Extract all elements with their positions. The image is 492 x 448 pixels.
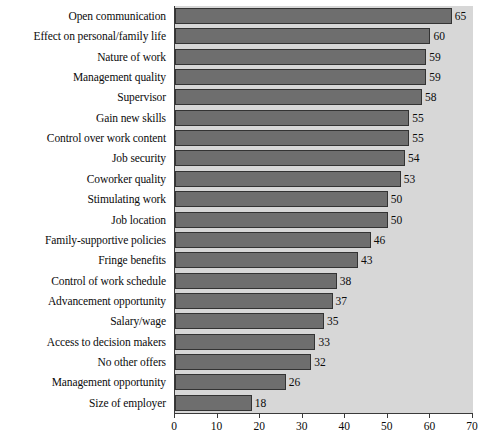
category-label: Family-supportive policies (45, 230, 166, 251)
x-tick-label: 30 (296, 419, 308, 433)
bar-row: 55 (175, 108, 473, 129)
bar-value-label: 46 (371, 231, 386, 249)
category-label: Open communication (68, 6, 166, 27)
bar-value-label: 60 (430, 27, 445, 45)
category-label: Control of work schedule (51, 271, 166, 292)
x-tick-label: 40 (339, 419, 351, 433)
x-tick-label: 50 (381, 419, 393, 433)
x-tick-mark (217, 413, 218, 418)
bar-value-label: 50 (388, 211, 403, 229)
x-tick-mark (429, 413, 430, 418)
category-label: Gain new skills (96, 108, 166, 129)
bar-row: 65 (175, 6, 473, 27)
bar (175, 150, 405, 166)
bar-row: 58 (175, 87, 473, 108)
bar-value-label: 50 (388, 190, 403, 208)
bar-row: 46 (175, 230, 473, 251)
bar-value-label: 26 (286, 373, 301, 391)
category-label: Fringe benefits (98, 250, 166, 271)
bar (175, 49, 426, 65)
category-label: Access to decision makers (47, 332, 166, 353)
category-label: Job location (111, 210, 166, 231)
bar (175, 69, 426, 85)
bar (175, 212, 388, 228)
bar-row: 43 (175, 250, 473, 271)
bar-row: 26 (175, 372, 473, 393)
x-tick-mark (259, 413, 260, 418)
x-tick-label: 60 (424, 419, 436, 433)
category-label: No other offers (97, 352, 166, 373)
bar-row: 33 (175, 332, 473, 353)
x-tick-label: 10 (211, 419, 223, 433)
bar (175, 273, 337, 289)
bar (175, 8, 452, 24)
category-label: Effect on personal/family life (33, 26, 166, 47)
horizontal-bar-chart: Open communicationEffect on personal/fam… (0, 0, 492, 448)
bar-value-label: 65 (452, 7, 467, 25)
bar-value-label: 55 (409, 129, 424, 147)
x-tick-label: 20 (253, 419, 265, 433)
bar-value-label: 54 (405, 149, 420, 167)
bar (175, 89, 422, 105)
category-label: Management opportunity (52, 372, 166, 393)
bar-row: 55 (175, 128, 473, 149)
bar (175, 334, 315, 350)
category-label: Job security (112, 148, 166, 169)
bar-row: 32 (175, 352, 473, 373)
bar (175, 171, 401, 187)
bar-value-label: 38 (337, 272, 352, 290)
bar-value-label: 43 (358, 251, 373, 269)
x-tick-label: 0 (171, 419, 177, 433)
bar-value-label: 58 (422, 88, 437, 106)
category-axis-labels: Open communicationEffect on personal/fam… (0, 6, 170, 413)
category-label: Salary/wage (110, 311, 166, 332)
x-tick-mark (387, 413, 388, 418)
x-tick-mark (472, 413, 473, 418)
bar-value-label: 18 (252, 394, 267, 412)
bar-value-label: 35 (324, 312, 339, 330)
bar (175, 130, 409, 146)
bar-value-label: 55 (409, 109, 424, 127)
bar-row: 54 (175, 148, 473, 169)
bar (175, 293, 333, 309)
bar-row: 50 (175, 189, 473, 210)
bar (175, 28, 430, 44)
bar-row: 37 (175, 291, 473, 312)
bar-row: 59 (175, 67, 473, 88)
bar-row: 18 (175, 393, 473, 414)
category-label: Control over work content (47, 128, 166, 149)
bar (175, 395, 252, 411)
bar-row: 50 (175, 210, 473, 231)
bar-row: 35 (175, 311, 473, 332)
x-tick-mark (302, 413, 303, 418)
bar (175, 110, 409, 126)
category-label: Stimulating work (87, 189, 166, 210)
plot-area: 6560595958555554535050464338373533322618 (174, 6, 473, 413)
bar-value-label: 59 (426, 48, 441, 66)
category-label: Supervisor (117, 87, 166, 108)
bar (175, 191, 388, 207)
bar (175, 252, 358, 268)
bar-row: 59 (175, 47, 473, 68)
category-label: Advancement opportunity (48, 291, 166, 312)
bar (175, 374, 286, 390)
x-tick-label: 70 (466, 419, 478, 433)
category-label: Nature of work (97, 47, 166, 68)
x-axis-line (174, 413, 473, 414)
bar (175, 313, 324, 329)
x-tick-mark (174, 413, 175, 418)
bar-value-label: 37 (333, 292, 348, 310)
bar-value-label: 33 (315, 333, 330, 351)
bars-container: 6560595958555554535050464338373533322618 (175, 6, 473, 413)
category-label: Coworker quality (87, 169, 166, 190)
bar-value-label: 59 (426, 68, 441, 86)
category-label: Management quality (73, 67, 166, 88)
bar-row: 53 (175, 169, 473, 190)
bar-value-label: 53 (401, 170, 416, 188)
x-tick-mark (344, 413, 345, 418)
bar-row: 38 (175, 271, 473, 292)
bar (175, 354, 311, 370)
bar (175, 232, 371, 248)
category-label: Size of employer (89, 393, 166, 414)
bar-value-label: 32 (311, 353, 326, 371)
